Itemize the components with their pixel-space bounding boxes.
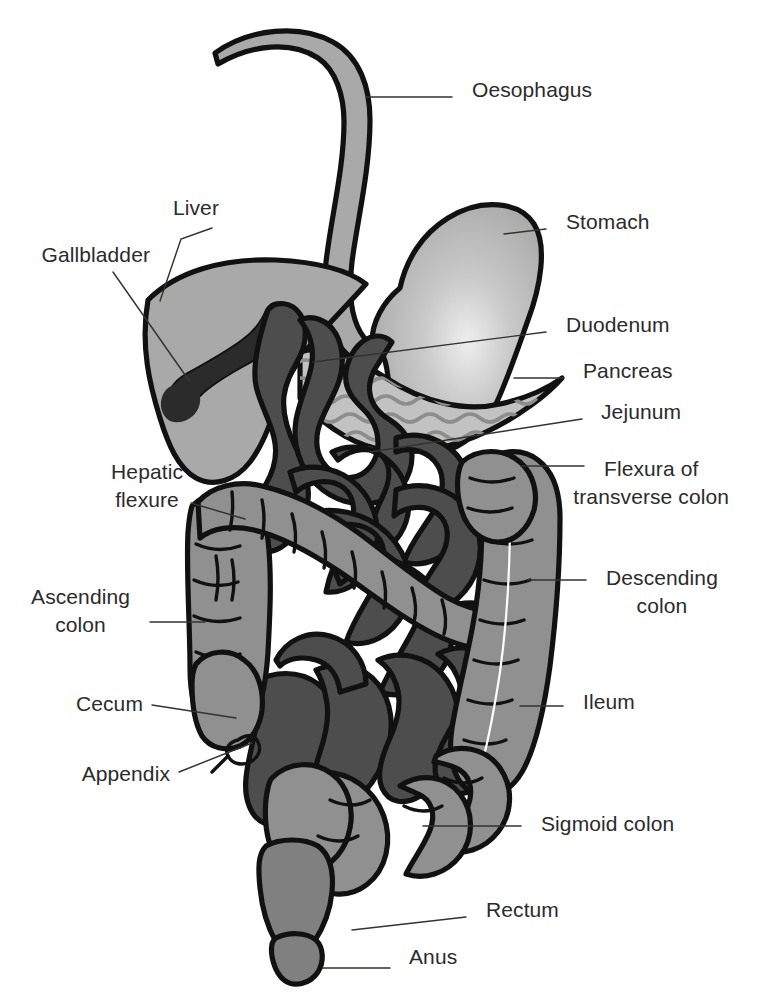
label-sigmoid_colon: Sigmoid colon xyxy=(541,812,674,835)
label-anus: Anus xyxy=(409,945,457,968)
label-pancreas: Pancreas xyxy=(583,359,673,382)
organ-rectum xyxy=(259,840,333,942)
label-descending_colon-line2: colon xyxy=(637,594,688,617)
label-jejunum: Jejunum xyxy=(601,400,681,423)
diagram-canvas: OesophagusLiverGallbladderStomachDuodenu… xyxy=(0,0,769,1007)
label-flexura-line2: transverse colon xyxy=(573,485,729,508)
label-duodenum: Duodenum xyxy=(566,313,670,336)
label-gallbladder: Gallbladder xyxy=(42,243,151,266)
organ-flexura-transverse-colon xyxy=(458,452,536,543)
label-ileum: Ileum xyxy=(583,690,635,713)
label-rectum: Rectum xyxy=(486,898,559,921)
label-ascending_colon: Ascending xyxy=(31,585,130,608)
label-descending_colon: Descending xyxy=(606,566,718,589)
label-hepatic_flexure: Hepatic xyxy=(111,460,183,483)
label-hepatic_flexure-line2: flexure xyxy=(115,488,179,511)
label-flexura: Flexura of xyxy=(604,457,698,480)
label-cecum: Cecum xyxy=(76,692,143,715)
label-liver: Liver xyxy=(173,196,219,219)
digestive-system-diagram: OesophagusLiverGallbladderStomachDuodenu… xyxy=(0,0,769,1007)
label-ascending_colon-line2: colon xyxy=(55,613,106,636)
organ-cecum xyxy=(192,652,262,749)
label-stomach: Stomach xyxy=(566,210,650,233)
label-appendix: Appendix xyxy=(82,762,171,785)
label-oesophagus: Oesophagus xyxy=(472,78,592,101)
organ-anus xyxy=(272,934,323,984)
